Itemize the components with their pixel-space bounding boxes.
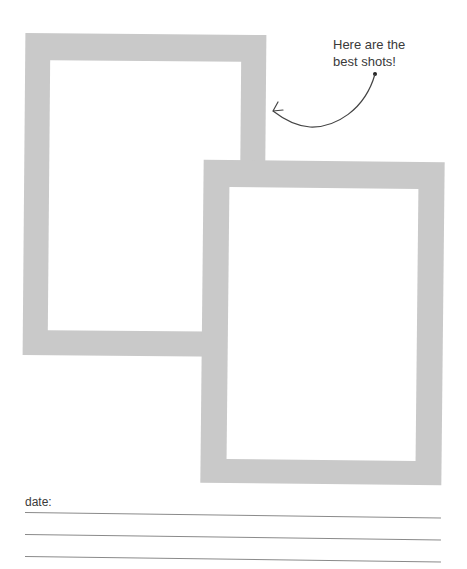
date-label: date: [25,495,52,509]
writing-line-3[interactable] [25,556,441,562]
date-line[interactable] [25,512,441,518]
photo-slot-2[interactable] [227,187,419,461]
note-line-1: Here are the [333,36,405,53]
writing-line-2[interactable] [25,534,441,540]
note-line-2: best shots! [333,53,405,70]
photo-frame-2 [200,160,444,486]
handwritten-note: Here are the best shots! [333,36,405,70]
